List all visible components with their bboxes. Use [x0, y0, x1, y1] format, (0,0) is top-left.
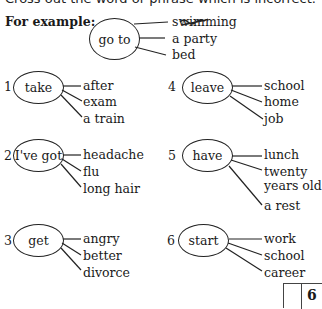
item-verb: take [25, 80, 52, 95]
item-verb-oval: leave [182, 71, 233, 104]
option-choice[interactable]: a train [83, 112, 125, 126]
item-verb-oval: take [13, 71, 64, 104]
scribble-strikethrough-icon [179, 17, 209, 27]
option-choice[interactable]: angry [83, 232, 120, 246]
instruction-text: Cross out the word or phrase which is in… [5, 0, 316, 6]
crossed-out-word: swimming [172, 15, 237, 29]
item-verb: start [189, 233, 219, 248]
score-divider [301, 284, 302, 309]
option-choice[interactable]: after [83, 79, 113, 93]
option-choice[interactable]: home [264, 95, 299, 109]
item-number: 1 [4, 79, 12, 94]
item-number: 5 [168, 148, 176, 163]
option-line: years old [264, 179, 322, 193]
example-verb: go to [98, 32, 130, 47]
option-choice[interactable]: work [264, 232, 296, 246]
item-verb-oval: get [13, 224, 64, 257]
option-choice[interactable]: exam [83, 95, 117, 109]
item-verb-oval: I've got [13, 139, 64, 172]
option-choice[interactable]: a rest [264, 199, 300, 213]
example-label: For example: [5, 14, 95, 29]
item-verb: have [193, 148, 223, 163]
option-choice[interactable]: better [83, 249, 122, 263]
option-choice[interactable]: school [264, 249, 305, 263]
item-number: 4 [168, 79, 176, 94]
score-answer-cell[interactable] [284, 284, 301, 309]
option-choice[interactable]: divorce [83, 266, 130, 280]
score-box: 6 [283, 283, 322, 308]
example-option: a party [172, 32, 217, 46]
option-choice[interactable]: school [264, 79, 305, 93]
example-option-crossed: swimming [172, 15, 237, 29]
option-choice[interactable]: twenty years old [264, 165, 322, 193]
item-verb: I've got [15, 148, 62, 163]
option-choice[interactable]: long hair [83, 182, 140, 196]
item-number: 6 [167, 233, 175, 248]
option-choice[interactable]: lunch [264, 148, 299, 162]
item-number: 2 [4, 148, 12, 163]
item-verb-oval: have [182, 139, 233, 172]
item-verb-oval: start [178, 224, 229, 257]
item-verb: leave [191, 80, 224, 95]
example-verb-oval: go to [89, 18, 140, 60]
option-choice[interactable]: career [264, 266, 305, 280]
score-total: 6 [307, 287, 317, 303]
item-number: 3 [4, 233, 12, 248]
item-verb: get [28, 233, 48, 248]
option-choice[interactable]: headache [83, 148, 144, 162]
option-choice[interactable]: flu [83, 165, 99, 179]
example-option: bed [172, 48, 195, 62]
option-line: twenty [264, 165, 322, 179]
option-choice[interactable]: job [264, 112, 283, 126]
